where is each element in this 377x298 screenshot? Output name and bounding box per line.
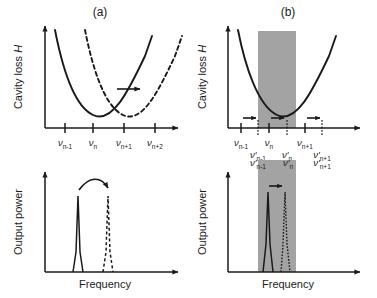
panel-d-y-axis-label: Output power xyxy=(196,189,208,255)
panel-b-y-axis-label: Cavity loss H xyxy=(196,45,208,109)
figure-svg: (a) Cavity loss H νn-1 νn νn+1 ν xyxy=(0,0,377,298)
panel-d-x-axis-label: Frequency xyxy=(262,278,314,290)
panel-a-title: (a) xyxy=(93,5,108,19)
panel-a-loss-curve-solid xyxy=(55,30,152,117)
panel-a-tick-label-2: νn+1 xyxy=(116,137,132,150)
panel-a-tick-label-0: νn-1 xyxy=(58,137,73,150)
panel-c-peak-dashed xyxy=(103,196,113,272)
panel-a-tick-label-1: νn xyxy=(89,137,98,150)
panel-c-y-axis-label: Output power xyxy=(12,189,24,255)
panel-b-title: (b) xyxy=(281,5,296,19)
panel-b-tick-label-0: νn-1 xyxy=(234,137,249,150)
panel-b-tick-label-2: νn+1 xyxy=(297,137,313,150)
figure-container: (a) Cavity loss H νn-1 νn νn+1 ν xyxy=(0,0,377,298)
panel-c-peak-solid xyxy=(73,196,83,272)
panel-a-tick-label-3: νn+2 xyxy=(147,137,163,150)
panel-a-loss-curve-dashed xyxy=(85,30,182,117)
panel-d: Output power Frequency ν′n-1 ν′n ν′n+1 xyxy=(196,157,360,290)
panel-c-hop-arrow xyxy=(79,179,108,190)
panel-a-y-axis-label: Cavity loss H xyxy=(12,45,24,109)
panel-b-tick-label-1: νn xyxy=(265,137,274,150)
panel-b: (b) Cavity loss H xyxy=(196,5,360,162)
panel-c-x-axis-label: Frequency xyxy=(79,278,131,290)
panel-a: (a) Cavity loss H νn-1 νn νn+1 ν xyxy=(12,5,182,150)
panel-d-gain-band xyxy=(258,160,296,272)
panel-c: Output power Frequency xyxy=(12,172,178,290)
panel-b-gain-band xyxy=(258,31,296,128)
